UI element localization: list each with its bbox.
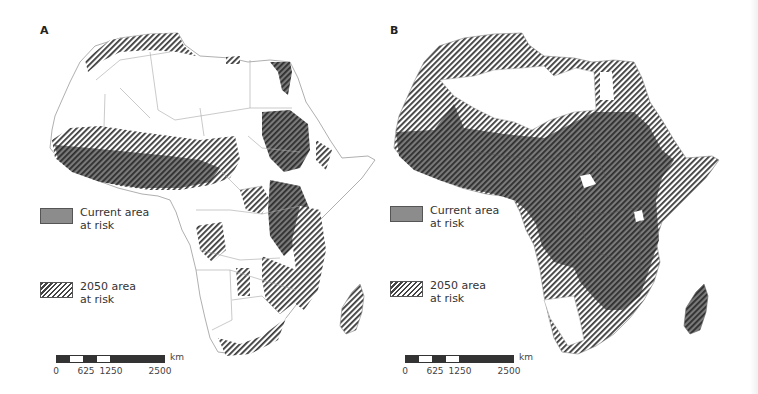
scale-tick: 625 xyxy=(426,366,443,376)
scale-unit: km xyxy=(170,352,184,362)
legend-label: Current area xyxy=(430,204,499,217)
scale-tick: 625 xyxy=(77,366,94,376)
legend-label: 2050 area xyxy=(80,280,136,293)
africa-map-b xyxy=(379,0,758,394)
legend-label: at risk xyxy=(80,293,114,306)
current-risk-swatch xyxy=(390,206,423,222)
hatch-swatch xyxy=(40,282,73,298)
scale-tick: 1250 xyxy=(449,366,472,376)
scale-unit: km xyxy=(519,352,533,362)
page-edge xyxy=(750,0,758,394)
legend-label: at risk xyxy=(430,217,464,230)
legend-label: Current area xyxy=(80,206,149,219)
scale-tick: 0 xyxy=(402,366,408,376)
scale-tick: 0 xyxy=(53,366,59,376)
hatch-swatch xyxy=(390,281,423,297)
scale-tick: 1250 xyxy=(100,366,123,376)
legend-label: at risk xyxy=(80,219,114,232)
legend-label: at risk xyxy=(430,292,464,305)
africa-map-a xyxy=(0,0,379,394)
panel-b: B Current areaat risk 2050 areaat risk xyxy=(379,0,758,394)
panel-a: A xyxy=(0,0,379,394)
scale-tick: 2500 xyxy=(498,366,521,376)
scale-tick: 2500 xyxy=(149,366,172,376)
legend-label: 2050 area xyxy=(430,279,486,292)
current-risk-swatch xyxy=(40,208,73,224)
